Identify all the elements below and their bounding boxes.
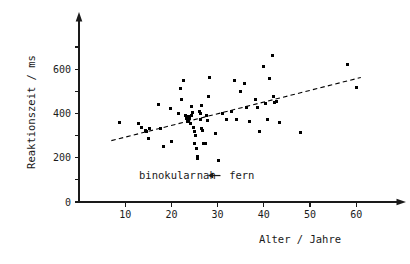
data-point <box>180 98 183 101</box>
data-point <box>214 132 217 135</box>
data-point <box>137 122 140 125</box>
y-tick-label: 600 <box>53 64 71 75</box>
x-tick-label: 60 <box>350 209 362 220</box>
data-point <box>355 86 358 89</box>
data-point <box>170 140 173 143</box>
data-point <box>221 112 224 115</box>
data-point <box>204 142 207 145</box>
y-tick-label: 200 <box>53 152 71 163</box>
data-point <box>162 145 165 148</box>
x-tick-label: 20 <box>165 209 177 220</box>
x-axis-arrowhead <box>397 199 407 206</box>
data-point <box>199 112 202 115</box>
data-point <box>190 105 193 108</box>
data-point <box>199 118 202 121</box>
data-point <box>264 102 267 105</box>
annotation-fern: fern <box>229 169 254 181</box>
x-axis-tick-labels: 102030405060 <box>119 209 362 220</box>
x-tick-label: 10 <box>119 209 131 220</box>
data-point <box>184 114 187 117</box>
data-point <box>262 65 265 68</box>
data-point <box>201 129 204 132</box>
data-point <box>275 100 278 103</box>
data-point <box>140 126 143 129</box>
x-tick-label: 50 <box>304 209 316 220</box>
data-point <box>254 98 257 101</box>
data-point <box>148 127 151 130</box>
data-point <box>188 117 191 120</box>
data-point <box>217 159 220 162</box>
y-tick-label: 400 <box>53 108 71 119</box>
data-point <box>157 103 160 106</box>
regression-trendline <box>111 78 360 141</box>
data-point <box>248 120 251 123</box>
data-point <box>268 77 271 80</box>
data-point <box>299 131 302 134</box>
data-point <box>195 147 198 150</box>
data-point <box>346 63 349 66</box>
data-point <box>194 134 197 137</box>
data-point <box>147 137 150 140</box>
data-point <box>190 114 193 117</box>
y-axis-ticks <box>75 47 80 202</box>
reaction-time-scatter-figure: 0200400600 102030405060 Reaktionszeit / … <box>0 0 410 264</box>
data-points <box>118 54 358 162</box>
data-point <box>208 76 211 79</box>
data-point <box>177 112 180 115</box>
data-point <box>243 82 246 85</box>
y-axis-tick-labels: 0200400600 <box>53 64 71 208</box>
annotation-binokular: binokular <box>139 169 196 181</box>
data-point <box>230 110 233 113</box>
data-point <box>207 95 210 98</box>
data-point <box>179 87 182 90</box>
data-point <box>196 157 199 160</box>
data-point <box>193 130 196 133</box>
data-point <box>169 107 172 110</box>
data-point <box>235 118 238 121</box>
data-point <box>182 79 185 82</box>
data-point <box>239 90 242 93</box>
data-point <box>118 121 121 124</box>
data-point <box>200 104 203 107</box>
y-tick-label: 0 <box>65 197 71 208</box>
data-point <box>191 111 194 114</box>
data-point <box>272 95 275 98</box>
data-point <box>256 106 259 109</box>
x-tick-label: 30 <box>212 209 224 220</box>
data-point <box>205 114 208 117</box>
data-point <box>145 130 148 133</box>
data-point <box>192 126 195 129</box>
plot-canvas: 0200400600 102030405060 Reaktionszeit / … <box>0 0 410 264</box>
x-axis-ticks <box>125 202 356 207</box>
data-point <box>278 121 281 124</box>
data-point <box>245 106 248 109</box>
data-point <box>258 130 261 133</box>
data-point <box>189 122 192 125</box>
y-axis-arrowhead <box>76 12 83 22</box>
x-tick-label: 40 <box>258 209 270 220</box>
data-point <box>225 118 228 121</box>
data-point <box>266 118 269 121</box>
data-point <box>198 110 201 113</box>
data-point <box>206 119 209 122</box>
x-axis-title: Alter / Jahre <box>259 233 341 245</box>
data-point <box>233 79 236 82</box>
data-point <box>159 127 162 130</box>
data-point <box>193 142 196 145</box>
y-axis-title: Reaktionszeit / ms <box>25 55 37 169</box>
data-point <box>271 54 274 57</box>
